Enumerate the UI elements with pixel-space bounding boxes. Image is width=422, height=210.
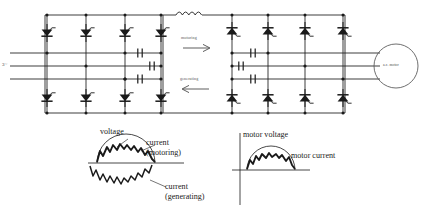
thyristor-left-top-4	[155, 24, 169, 42]
current-motoring-label-2: (motoring)	[146, 149, 181, 157]
motor-current-label: motor current	[291, 152, 335, 160]
dc-link-top-rail	[163, 12, 232, 113]
supply-waveform-graphic	[88, 134, 184, 187]
thyristor-left-bot-1	[41, 89, 55, 107]
generating-arrow	[182, 85, 209, 92]
ac-motor-label: a.c. motor	[383, 64, 399, 68]
current-motoring-label-1: current	[146, 139, 169, 147]
dc-link-inductor	[176, 12, 202, 15]
thyristor-right-top-1	[226, 22, 240, 40]
motor-waveform-graphic	[232, 133, 310, 205]
thyristor-right-bot-1	[226, 89, 240, 107]
thyristor-right-top-3	[299, 22, 313, 40]
thyristor-left-top-3	[119, 24, 133, 42]
thyristor-right-top-2	[262, 22, 276, 40]
voltage-label: voltage	[100, 128, 124, 136]
junction-dots-right	[230, 14, 344, 115]
current-generating-label-1: current	[165, 183, 188, 191]
thyristor-left-bot-3	[119, 89, 133, 107]
thyristor-left-top-2	[80, 24, 94, 42]
supply-label: 3~	[2, 62, 7, 67]
motor-voltage-label: motor voltage	[243, 131, 288, 139]
current-generating-label-2: (generating)	[165, 193, 205, 201]
junction-dots-left	[45, 14, 162, 115]
thyristor-right-bot-4	[337, 89, 351, 107]
schematic-svg	[0, 0, 422, 210]
thyristor-left-bot-4	[155, 89, 169, 107]
circuit-diagram-canvas: 3~ motoring generating a.c. motor voltag…	[0, 0, 422, 210]
thyristor-left-top-1	[41, 24, 55, 42]
thyristor-right-bot-2	[262, 89, 276, 107]
thyristor-left-bot-2	[80, 89, 94, 107]
thyristor-right-top-4	[337, 22, 351, 40]
generating-label: generating	[180, 77, 198, 81]
thyristor-right-bot-3	[299, 89, 313, 107]
motoring-arrow	[183, 44, 210, 51]
motoring-label: motoring	[181, 36, 197, 40]
